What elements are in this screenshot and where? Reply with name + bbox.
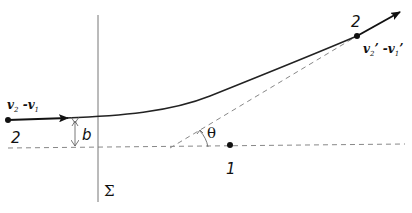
plane-sigma-label: Σ — [104, 184, 115, 199]
start-point-dot — [5, 117, 11, 123]
axis-dashed-line — [8, 144, 405, 148]
target-point-dot — [227, 142, 233, 148]
initial-velocity-label: v2 -v1 — [7, 99, 39, 114]
final-velocity-arrow — [357, 12, 400, 36]
end-point-dot — [354, 33, 360, 39]
asymptote-dashed-line — [170, 36, 357, 148]
end-point-label: 2 — [351, 15, 361, 30]
diagram-canvas — [0, 0, 412, 213]
start-point-label: 2 — [11, 131, 21, 146]
initial-velocity-arrow — [8, 118, 68, 120]
impact-parameter-label: b — [82, 128, 92, 143]
angle-theta-label: θ — [207, 126, 216, 141]
target-point-label: 1 — [226, 162, 236, 177]
trajectory-curve — [66, 36, 357, 118]
final-velocity-label: v2’ -v1’ — [363, 43, 403, 58]
